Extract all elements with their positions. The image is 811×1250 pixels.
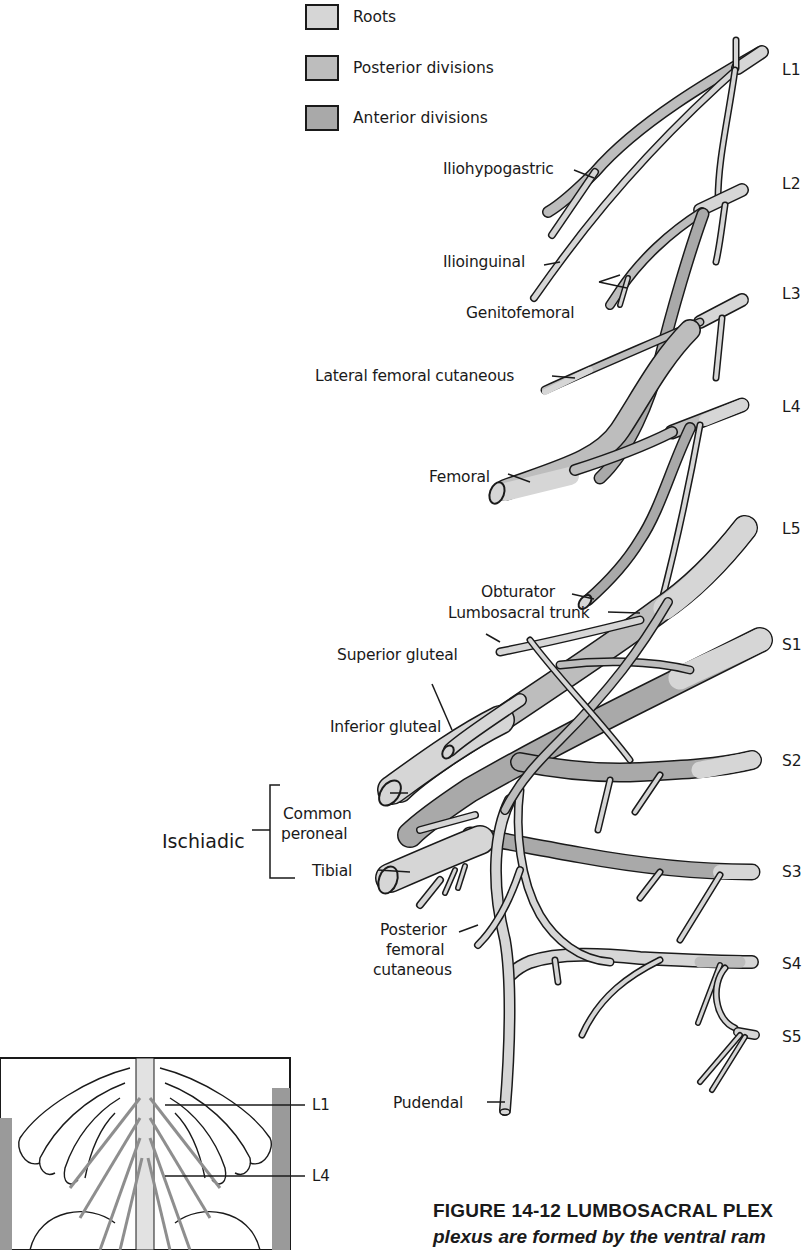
figure: .n { fill:none; stroke-linecap:round; st… xyxy=(0,0,811,1250)
legend-item-roots: Roots xyxy=(305,3,396,31)
label-lateral-femoral-cutaneous: Lateral femoral cutaneous xyxy=(315,367,514,385)
legend-swatch-anterior xyxy=(305,105,339,131)
figure-caption-subtitle: plexus are formed by the ventral ram xyxy=(433,1226,766,1248)
label-inferior-gluteal: Inferior gluteal xyxy=(330,718,441,736)
legend-label: Posterior divisions xyxy=(353,59,494,77)
label-ischiadic: Ischiadic xyxy=(162,830,245,852)
segment-label-l5: L5 xyxy=(782,520,801,538)
legend-label: Roots xyxy=(353,8,396,26)
segment-label-s4: S4 xyxy=(782,955,802,973)
segment-label-s5: S5 xyxy=(782,1028,802,1046)
legend-swatch-roots xyxy=(305,4,339,30)
segment-label-l1: L1 xyxy=(782,61,801,79)
figure-caption-title: FIGURE 14-12 LUMBOSACRAL PLEX xyxy=(433,1200,773,1222)
label-ilioinguinal: Ilioinguinal xyxy=(443,253,525,271)
legend-label: Anterior divisions xyxy=(353,109,488,127)
label-iliohypogastric: Iliohypogastric xyxy=(443,160,554,178)
label-femoral: Femoral xyxy=(429,468,490,486)
label-posterior-femoral-cutaneous-line3: cutaneous xyxy=(373,961,452,979)
label-tibial: Tibial xyxy=(312,862,352,880)
label-posterior-femoral-cutaneous-line2: femoral xyxy=(386,941,444,959)
legend-item-anterior-divisions: Anterior divisions xyxy=(305,104,488,132)
label-common-peroneal-line2: peroneal xyxy=(281,825,347,843)
legend-swatch-posterior xyxy=(305,55,339,81)
segment-label-l4: L4 xyxy=(782,398,801,416)
segment-label-l2: L2 xyxy=(782,175,801,193)
label-common-peroneal-line1: Common xyxy=(283,805,352,823)
label-posterior-femoral-cutaneous-line1: Posterior xyxy=(380,921,447,939)
segment-label-l3: L3 xyxy=(782,285,801,303)
label-obturator: Obturator xyxy=(481,583,555,601)
label-genitofemoral: Genitofemoral xyxy=(466,304,574,322)
segment-label-s3: S3 xyxy=(782,863,802,881)
segment-label-s2: S2 xyxy=(782,752,802,770)
inset-label-l1: L1 xyxy=(312,1096,330,1114)
label-pudendal: Pudendal xyxy=(393,1094,463,1112)
legend-item-posterior-divisions: Posterior divisions xyxy=(305,54,494,82)
label-superior-gluteal: Superior gluteal xyxy=(337,646,458,664)
segment-label-s1: S1 xyxy=(782,636,802,654)
inset-label-l4: L4 xyxy=(312,1167,330,1185)
inset-spine-illustration xyxy=(0,1058,305,1250)
label-lumbosacral-trunk: Lumbosacral trunk xyxy=(448,604,589,622)
lumbosacral-plexus-diagram: .n { fill:none; stroke-linecap:round; st… xyxy=(0,0,811,1250)
